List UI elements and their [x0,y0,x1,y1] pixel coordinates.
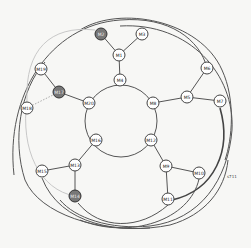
nodes: M1 M2 M3 M4 M5 M6 M7 M8 M9 M10 M11 M12 M… [21,28,226,205]
node-M15[interactable]: M15 [36,165,48,177]
node-label: M18 [22,106,32,111]
node-label: M15 [37,169,47,174]
network-diagram: M1 M2 M3 M4 M5 M6 M7 M8 M9 M10 M11 M12 M… [0,0,251,248]
node-label: M13 [70,163,80,168]
node-M6[interactable]: M6 [201,62,213,74]
ring-arc-m10 [80,179,199,228]
annotation-label: s711 [227,174,237,179]
ring-arc-thick [172,108,224,200]
node-M7[interactable]: M7 [214,95,226,107]
node-label: M9 [163,164,170,169]
node-label: M7 [217,99,224,104]
node-M11[interactable]: M11 [162,193,174,205]
node-M10[interactable]: M10 [193,167,205,179]
node-label: M19 [36,67,46,72]
node-M9[interactable]: M9 [160,160,172,172]
node-M3[interactable]: M3 [136,28,148,40]
node-label: M11 [163,197,173,202]
node-label: M8 [150,101,157,106]
node-label: M2 [98,32,105,37]
node-label: M16 [91,138,101,143]
node-label: M6 [204,66,211,71]
node-M17[interactable]: M17 [53,86,65,98]
node-label: M14 [70,194,80,199]
node-label: M20 [84,101,94,106]
node-M20[interactable]: M20 [83,97,95,109]
ring-arc-top-left [13,20,207,175]
node-M19[interactable]: M19 [35,63,47,75]
node-M14[interactable]: M14 [69,190,81,202]
node-M18[interactable]: M18 [21,102,33,114]
node-M12[interactable]: M12 [145,134,157,146]
ring-arc-left [19,62,150,229]
node-label: M1 [116,53,123,58]
node-M5[interactable]: M5 [181,91,193,103]
node-M16[interactable]: M16 [90,134,102,146]
node-label: M10 [194,171,204,176]
node-M13[interactable]: M13 [69,159,81,171]
node-label: M4 [117,78,124,83]
node-M4[interactable]: M4 [114,74,126,86]
node-M2[interactable]: M2 [95,28,107,40]
node-label: M3 [139,32,146,37]
node-M1[interactable]: M1 [113,49,125,61]
node-label: M12 [146,138,156,143]
node-label: M5 [184,95,191,100]
node-label: M17 [54,90,64,95]
node-M8[interactable]: M8 [147,97,159,109]
